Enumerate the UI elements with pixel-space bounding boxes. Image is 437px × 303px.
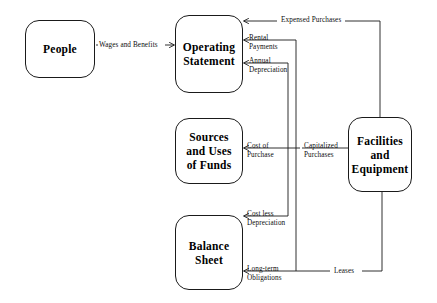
node-sources-line-3: of Funds (187, 158, 232, 172)
node-facilities-line-3: Equipment (352, 162, 409, 176)
node-balance-sheet-line-1: Balance (189, 239, 229, 253)
edge-label-expensed-purchases: Expensed Purchases (281, 16, 341, 25)
edge-label-annual-depreciation: Annual Depreciation (249, 57, 287, 74)
edge-label-rental-payments: Rental Payments (249, 34, 278, 51)
edge-label-cost-of-purchase-line-2: Purchase (247, 151, 274, 160)
edge-label-leases-line-1: Leases (334, 267, 354, 276)
node-facilities-line-1: Facilities (357, 134, 403, 148)
connector-expensed-purchases (345, 21, 380, 117)
edge-label-capitalized-purchases-line-1: Capitalized (304, 142, 338, 151)
node-facilities-and-equipment[interactable]: Facilities and Equipment (348, 117, 412, 192)
node-operating-statement-line-2: Statement (183, 54, 235, 68)
edge-label-wages-and-benefits-line-1: Wages and Benefits (99, 41, 158, 50)
edge-label-cost-less-depreciation-line-1: Cost less (247, 210, 285, 219)
edge-label-long-term-obligations: Long-term Obligations (247, 265, 282, 282)
node-sources-line-1: Sources (189, 130, 229, 144)
edge-label-rental-payments-line-2: Payments (249, 43, 278, 52)
edge-label-capitalized-purchases-line-2: Purchases (304, 151, 338, 160)
node-people[interactable]: People (25, 20, 95, 78)
node-facilities-line-2: and (370, 148, 389, 162)
connector-annual-depreciation (244, 63, 288, 216)
connector-leases (362, 192, 382, 271)
node-operating-statement-line-1: Operating (183, 40, 235, 54)
edge-label-long-term-obligations-line-1: Long-term (247, 265, 282, 274)
edge-label-annual-depreciation-line-2: Depreciation (249, 66, 287, 75)
edge-label-long-term-obligations-line-2: Obligations (247, 274, 282, 283)
edge-label-capitalized-purchases: Capitalized Purchases (304, 142, 338, 159)
edge-label-expensed-purchases-line-1: Expensed Purchases (281, 16, 341, 25)
node-sources-line-2: and Uses (186, 144, 231, 158)
node-operating-statement[interactable]: Operating Statement (175, 15, 243, 93)
node-balance-sheet-line-2: Sheet (195, 253, 223, 267)
edge-label-annual-depreciation-line-1: Annual (249, 57, 287, 66)
edge-label-cost-less-depreciation-line-2: Depreciation (247, 219, 285, 228)
node-sources-and-uses-of-funds[interactable]: Sources and Uses of Funds (175, 118, 243, 184)
node-people-line-1: People (43, 42, 77, 56)
edge-label-cost-of-purchase: Cost of Purchase (247, 142, 274, 159)
node-balance-sheet[interactable]: Balance Sheet (175, 215, 243, 290)
edge-label-wages-and-benefits: Wages and Benefits (99, 41, 158, 50)
edge-label-leases: Leases (334, 267, 354, 276)
edge-label-cost-of-purchase-line-1: Cost of (247, 142, 274, 151)
edge-label-cost-less-depreciation: Cost less Depreciation (247, 210, 285, 227)
edge-label-rental-payments-line-1: Rental (249, 34, 278, 43)
diagram-canvas: People Operating Statement Sources and U… (0, 0, 437, 303)
